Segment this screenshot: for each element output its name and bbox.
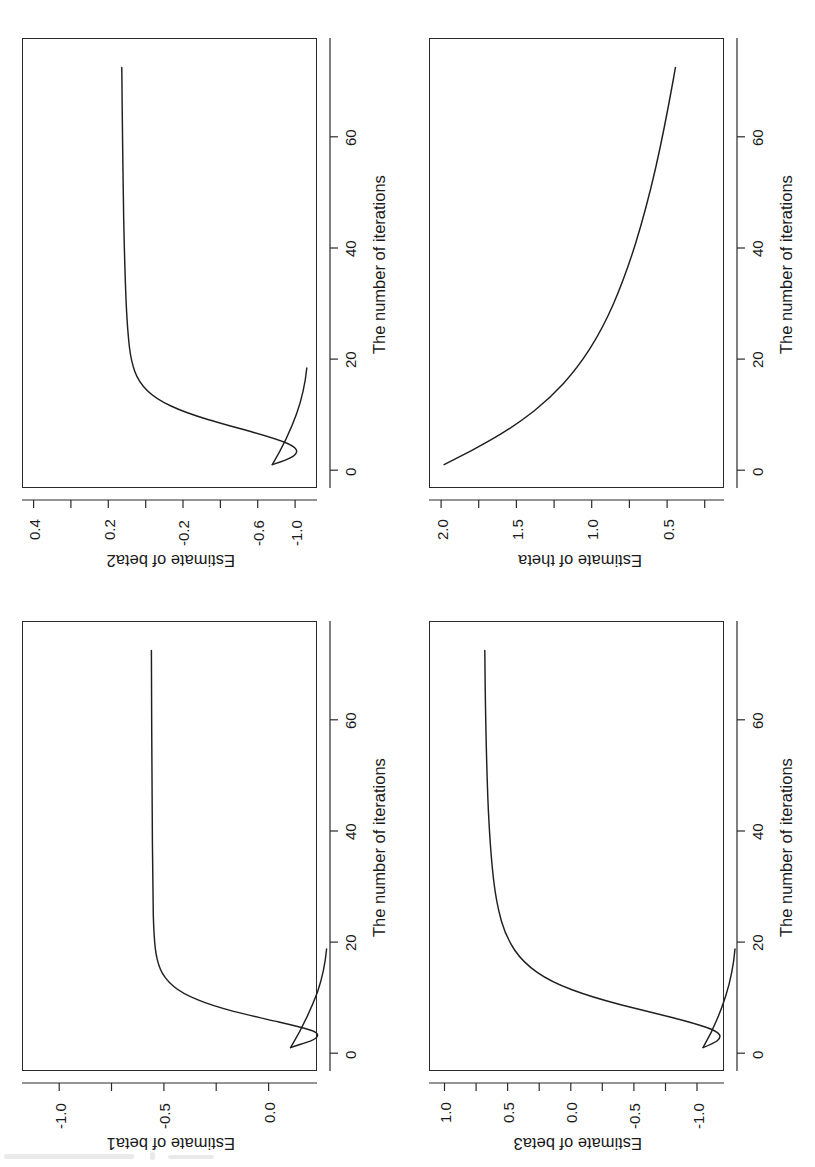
- x-tick-label-beta3-0: 0: [749, 1051, 766, 1059]
- x-tick-label-beta2-60: 60: [342, 129, 359, 146]
- plot-svg-theta: [407, 0, 815, 584]
- data-curve-beta3-initial-tail: [703, 949, 735, 1048]
- y-ticks-beta2: [34, 500, 296, 508]
- x-ticks-beta2: [330, 137, 338, 470]
- y-tick-label-beta2-2: -0.2: [175, 520, 192, 546]
- x-axis-title-beta1: The number of iterations: [370, 758, 389, 937]
- y-tick-label-beta2-0: 0.4: [26, 519, 43, 540]
- plot-svg-beta3: [407, 584, 815, 1167]
- figure-rotator: 0 20 40 60 0.0 -0.5 -1.0 The number of i…: [0, 0, 815, 1167]
- y-tick-label-beta3-2: 0.0: [563, 1102, 580, 1123]
- y-ticks-beta1: [59, 1083, 268, 1091]
- x-tick-label-beta1-40: 40: [342, 823, 359, 840]
- x-tick-label-beta2-0: 0: [342, 468, 359, 476]
- scan-artifact-secondary: [150, 1152, 155, 1160]
- figure-canvas: 0 20 40 60 0.0 -0.5 -1.0 The number of i…: [0, 0, 815, 1167]
- data-curve-beta1-initial-tail: [291, 949, 327, 1048]
- y-tick-label-theta-3: 0.5: [660, 519, 677, 540]
- x-ticks-beta1: [330, 720, 338, 1053]
- y-tick-label-beta1-2: -1.0: [52, 1103, 69, 1129]
- y-tick-label-theta-2: 1.0: [584, 519, 601, 540]
- x-axis-title-beta3: The number of iterations: [777, 758, 796, 937]
- y-tick-label-theta-0: 2.0: [434, 519, 451, 540]
- panel-theta: 0 20 40 60 2.0 1.5 1.0 0.5 The number of…: [407, 0, 815, 584]
- x-tick-label-theta-60: 60: [749, 129, 766, 146]
- x-tick-label-beta3-40: 40: [749, 823, 766, 840]
- y-tick-label-beta3-4: -1.0: [690, 1103, 707, 1129]
- x-tick-label-theta-40: 40: [749, 240, 766, 257]
- data-curve-beta3: [485, 651, 720, 1048]
- data-curve-beta2: [122, 68, 297, 465]
- y-axis-title-beta2: Estimate of beta2: [107, 551, 235, 570]
- x-tick-label-beta1-0: 0: [342, 1051, 359, 1059]
- y-axis-title-theta: Estimate of theta: [518, 551, 642, 570]
- x-axis-title-theta: The number of iterations: [777, 175, 796, 354]
- x-tick-label-beta3-20: 20: [749, 934, 766, 951]
- x-axis-title-beta2: The number of iterations: [370, 175, 389, 354]
- x-tick-label-beta3-60: 60: [749, 712, 766, 729]
- panel-beta2: 0 20 40 60 0.4 0.2 -0.2 -0.6 -1.0 The nu…: [0, 0, 407, 584]
- y-axis-title-beta1: Estimate of beta1: [107, 1134, 235, 1153]
- scan-artifact: [4, 1154, 134, 1159]
- y-tick-label-beta3-1: 0.5: [500, 1102, 517, 1123]
- y-tick-label-beta1-1: -0.5: [156, 1103, 173, 1129]
- x-ticks-theta: [737, 137, 745, 470]
- y-tick-label-beta2-3: -0.6: [250, 520, 267, 546]
- data-curve-beta2-initial-tail: [272, 368, 307, 465]
- x-tick-label-theta-0: 0: [749, 468, 766, 476]
- x-tick-label-beta2-20: 20: [342, 351, 359, 368]
- x-tick-label-beta1-20: 20: [342, 934, 359, 951]
- data-curve-beta1: [151, 651, 317, 1048]
- plot-svg-beta2: [0, 0, 407, 584]
- x-ticks-beta3: [737, 720, 745, 1053]
- data-curve-theta: [444, 68, 675, 465]
- scan-artifact-tertiary: [168, 1155, 214, 1159]
- panel-beta1: 0 20 40 60 0.0 -0.5 -1.0 The number of i…: [0, 584, 407, 1167]
- y-tick-label-beta3-3: -0.5: [626, 1103, 643, 1129]
- y-axis-title-beta3: Estimate of beta3: [514, 1134, 642, 1153]
- y-ticks-theta: [441, 500, 705, 508]
- y-tick-label-beta1-0: 0.0: [261, 1102, 278, 1123]
- y-tick-label-beta3-0: 1.0: [437, 1102, 454, 1123]
- panel-beta3: 0 20 40 60 1.0 0.5 0.0 -0.5 -1.0 The num…: [407, 584, 815, 1167]
- y-tick-label-beta2-4: -1.0: [288, 520, 305, 546]
- x-tick-label-beta1-60: 60: [342, 712, 359, 729]
- plot-svg-beta1: [0, 584, 407, 1167]
- x-tick-label-beta2-40: 40: [342, 240, 359, 257]
- x-tick-label-theta-20: 20: [749, 351, 766, 368]
- y-ticks-beta3: [445, 1083, 698, 1091]
- y-tick-label-beta2-1: 0.2: [101, 519, 118, 540]
- y-tick-label-theta-1: 1.5: [509, 519, 526, 540]
